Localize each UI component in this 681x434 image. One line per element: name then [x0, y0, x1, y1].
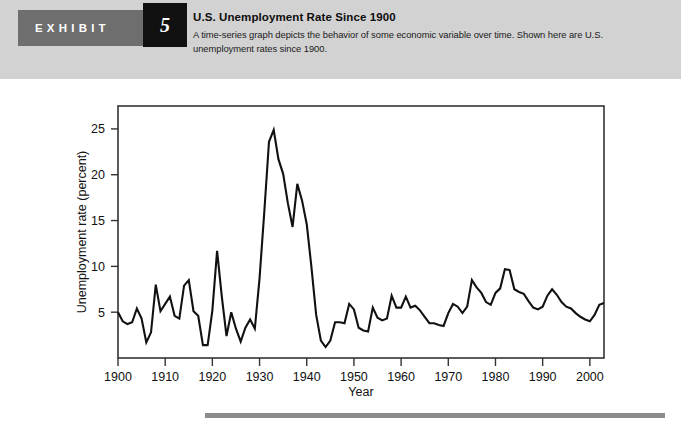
exhibit-number: 5	[160, 14, 170, 37]
x-axis-tick-label: 1940	[293, 370, 321, 384]
x-axis-tick-label: 1950	[340, 370, 368, 384]
x-axis-tick-label: 1980	[482, 370, 510, 384]
y-axis-tick-label: 10	[91, 260, 105, 274]
x-axis-tick-label: 1910	[151, 370, 179, 384]
x-axis-tick-label: 1970	[434, 370, 462, 384]
y-axis-tick-label: 5	[98, 306, 105, 320]
x-axis-tick-label: 1990	[529, 370, 557, 384]
exhibit-header-band: EXHIBIT 5 U.S. Unemployment Rate Since 1…	[0, 0, 681, 79]
plot-frame	[118, 106, 604, 358]
exhibit-header-text: U.S. Unemployment Rate Since 1900 A time…	[193, 11, 648, 55]
chart-region: 510152025 190019101920193019401950196019…	[0, 79, 681, 404]
x-axis-tick-label: 1900	[104, 370, 132, 384]
x-axis: 1900191019201930194019501960197019801990…	[104, 358, 604, 384]
x-axis-title: Year	[348, 385, 373, 399]
y-axis: 510152025	[91, 122, 118, 319]
bottom-rule	[205, 413, 665, 418]
unemployment-line-chart: 510152025 190019101920193019401950196019…	[0, 79, 681, 404]
x-axis-tick-label: 1930	[246, 370, 274, 384]
x-axis-tick-label: 2000	[576, 370, 604, 384]
y-axis-tick-label: 15	[91, 214, 105, 228]
y-axis-tick-label: 25	[91, 122, 105, 136]
exhibit-description: A time-series graph depicts the behavior…	[193, 28, 648, 55]
y-axis-title: Unemployment rate (percent)	[75, 151, 89, 314]
exhibit-label: EXHIBIT	[18, 22, 110, 34]
x-axis-tick-label: 1960	[387, 370, 415, 384]
x-axis-tick-label: 1920	[198, 370, 226, 384]
y-axis-tick-label: 20	[91, 168, 105, 182]
exhibit-number-box: 5	[143, 3, 187, 47]
exhibit-title: U.S. Unemployment Rate Since 1900	[193, 11, 648, 23]
